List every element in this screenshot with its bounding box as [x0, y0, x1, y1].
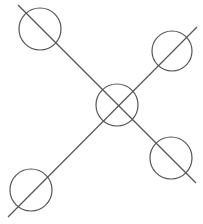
circle-node-2 [152, 31, 192, 71]
diagonal-line-2 [8, 27, 197, 217]
diagram-canvas [0, 0, 203, 224]
circle-node-3 [96, 84, 138, 126]
circle-node-5 [10, 169, 52, 211]
circle-node-1 [19, 8, 61, 50]
